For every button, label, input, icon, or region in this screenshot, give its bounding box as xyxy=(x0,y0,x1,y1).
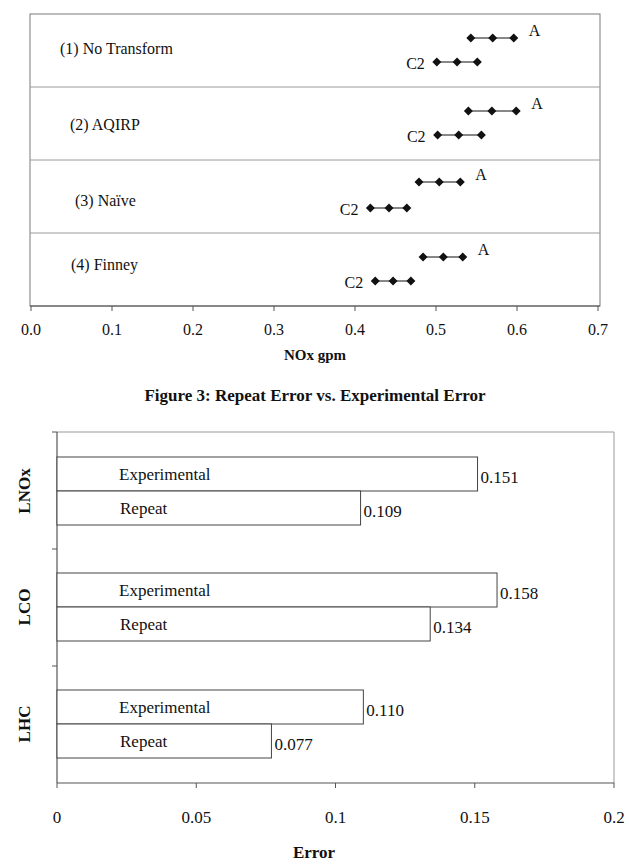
bar-repeat xyxy=(57,491,361,525)
series-label: C2 xyxy=(407,128,426,145)
series-label: C2 xyxy=(406,55,425,72)
row-label: (1) No Transform xyxy=(60,40,173,58)
x-axis-ticks: 00.050.10.150.2 xyxy=(53,783,625,827)
bar-value-label: 0.110 xyxy=(366,701,404,720)
bar-value-label: 0.151 xyxy=(481,468,519,487)
x-tick-label: 0.0 xyxy=(21,321,41,338)
category-label: LNOx xyxy=(15,468,34,514)
x-tick-label: 0.15 xyxy=(460,808,490,827)
series-label: A xyxy=(478,241,490,258)
x-tick-label: 0.2 xyxy=(603,808,624,827)
series-label: C2 xyxy=(345,274,364,291)
bar-inner-label: Repeat xyxy=(120,732,167,751)
bar-group-lco: Experimental0.158Repeat0.134LCO xyxy=(15,573,538,641)
x-tick-label: 0.5 xyxy=(426,321,446,338)
chart-nox-intervals: (1) No Transform (2) AQIRP (3) Naïve (4)… xyxy=(21,14,608,363)
chart-title: Figure 3: Repeat Error vs. Experimental … xyxy=(144,386,485,405)
x-tick-label: 0.1 xyxy=(102,321,122,338)
bar-value-label: 0.134 xyxy=(433,618,472,637)
x-axis-label: NOx gpm xyxy=(284,347,347,363)
bar-value-label: 0.158 xyxy=(500,584,538,603)
series-label: A xyxy=(475,166,487,183)
bar-inner-label: Experimental xyxy=(119,581,211,600)
bar-group-lnox: Experimental0.151Repeat0.109LNOx xyxy=(15,457,519,525)
bar-layer: Experimental0.151Repeat0.109LNOxExperime… xyxy=(15,457,538,758)
series-label: A xyxy=(531,95,543,112)
bar-group-lhc: Experimental0.110Repeat0.077LHC xyxy=(15,690,404,758)
x-tick-label: 0.2 xyxy=(183,321,203,338)
x-tick-label: 0.4 xyxy=(345,321,365,338)
bar-inner-label: Experimental xyxy=(119,465,211,484)
x-tick-label: 0.6 xyxy=(507,321,527,338)
figure-canvas: (1) No Transform (2) AQIRP (3) Naïve (4)… xyxy=(0,0,629,864)
bar-inner-label: Experimental xyxy=(119,698,211,717)
x-axis-label: Error xyxy=(293,843,336,862)
chart-error-bars: Figure 3: Repeat Error vs. Experimental … xyxy=(15,386,625,862)
bar-value-label: 0.077 xyxy=(274,735,313,754)
bar-inner-label: Repeat xyxy=(120,615,167,634)
row-label: (4) Finney xyxy=(71,256,138,274)
x-tick-label: 0.1 xyxy=(325,808,346,827)
category-label: LHC xyxy=(15,706,34,743)
category-label: LCO xyxy=(15,589,34,626)
series-label: C2 xyxy=(340,201,359,218)
row-label: (2) AQIRP xyxy=(70,116,140,134)
bar-inner-label: Repeat xyxy=(120,499,167,518)
x-tick-label: 0.3 xyxy=(264,321,284,338)
bar-value-label: 0.109 xyxy=(364,502,402,521)
x-tick-label: 0.7 xyxy=(588,321,608,338)
x-tick-label: 0 xyxy=(53,808,62,827)
x-tick-label: 0.05 xyxy=(181,808,211,827)
series-label: A xyxy=(529,22,541,39)
bar-repeat xyxy=(57,607,430,641)
row-label: (3) Naïve xyxy=(75,192,136,210)
x-axis-ticks: 0.00.10.20.30.40.50.60.7 xyxy=(21,306,608,338)
